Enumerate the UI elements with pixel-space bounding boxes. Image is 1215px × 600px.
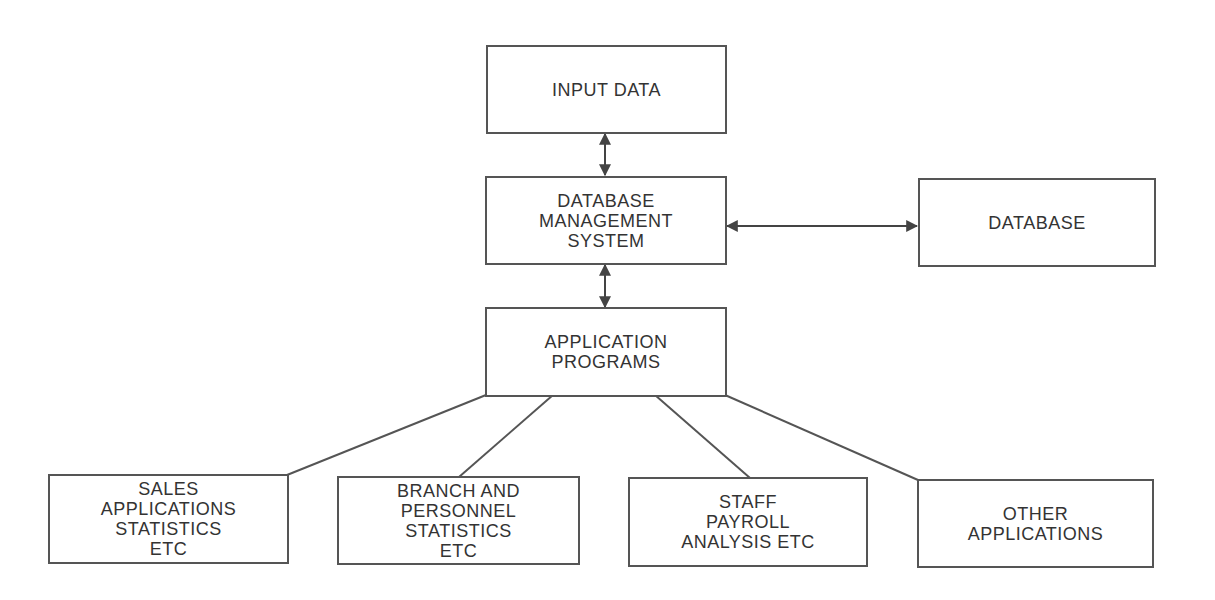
dbms-label: DATABASE MANAGEMENT SYSTEM [539, 191, 673, 251]
branch-box: BRANCH AND PERSONNEL STATISTICS ETC [337, 476, 580, 565]
line-apps-other [725, 395, 918, 480]
line-apps-staff [655, 395, 750, 478]
other-applications-box: OTHER APPLICATIONS [917, 479, 1154, 568]
line-apps-sales [287, 395, 486, 475]
dbms-architecture-diagram: INPUT DATA DATABASE MANAGEMENT SYSTEM DA… [0, 0, 1215, 600]
application-programs-box: APPLICATION PROGRAMS [485, 307, 727, 397]
dbms-box: DATABASE MANAGEMENT SYSTEM [485, 176, 727, 265]
other-applications-label: OTHER APPLICATIONS [968, 504, 1104, 544]
branch-label: BRANCH AND PERSONNEL STATISTICS ETC [397, 481, 520, 561]
sales-label: SALES APPLICATIONS STATISTICS ETC [101, 479, 237, 559]
database-label: DATABASE [988, 213, 1085, 233]
staff-box: STAFF PAYROLL ANALYSIS ETC [628, 477, 868, 567]
input-data-box: INPUT DATA [486, 45, 727, 134]
line-apps-branch [459, 395, 553, 477]
staff-label: STAFF PAYROLL ANALYSIS ETC [681, 492, 815, 552]
input-data-label: INPUT DATA [552, 80, 661, 100]
database-box: DATABASE [918, 178, 1156, 267]
sales-box: SALES APPLICATIONS STATISTICS ETC [48, 474, 289, 564]
application-programs-label: APPLICATION PROGRAMS [544, 332, 667, 372]
